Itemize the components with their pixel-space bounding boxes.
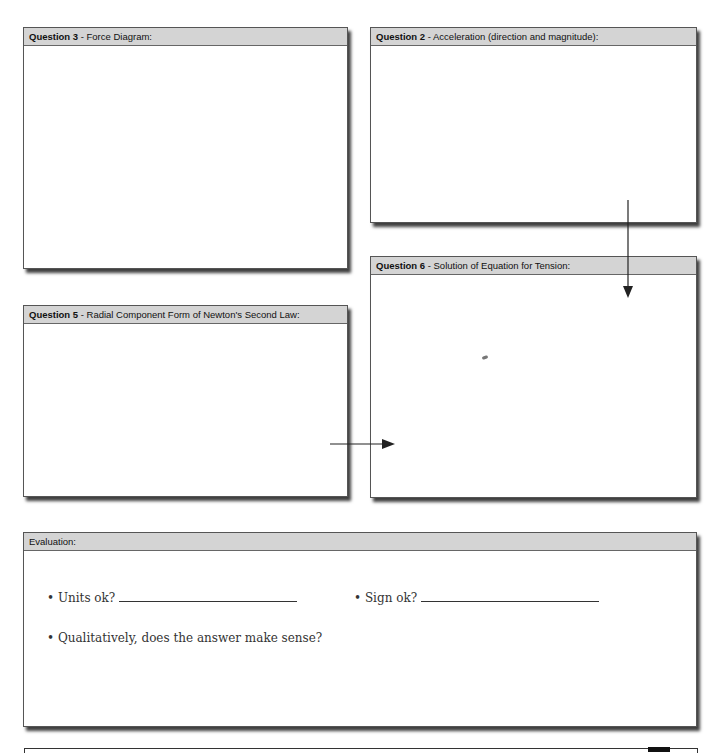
question-5-box: Question 5 - Radial Component Form of Ne… <box>23 305 348 497</box>
question-3-title: - Force Diagram: <box>78 31 152 42</box>
question-6-title: - Solution of Equation for Tension: <box>425 260 570 271</box>
evaluation-title: Evaluation: <box>29 536 76 547</box>
qualitative-item: • Qualitatively, does the answer make se… <box>47 631 322 645</box>
question-2-number: Question 2 <box>376 31 425 42</box>
evaluation-header: Evaluation: <box>24 533 696 551</box>
question-6-box: Question 6 - Solution of Equation for Te… <box>370 256 697 498</box>
sign-ok-item: • Sign ok? <box>354 589 599 605</box>
question-3-header: Question 3 - Force Diagram: <box>24 28 347 46</box>
arrow-down-icon <box>621 200 635 300</box>
question-5-header: Question 5 - Radial Component Form of Ne… <box>24 306 347 324</box>
question-3-number: Question 3 <box>29 31 78 42</box>
question-5-answer-area[interactable] <box>24 324 347 496</box>
question-5-title: - Radial Component Form of Newton's Seco… <box>78 309 299 320</box>
question-6-header: Question 6 - Solution of Equation for Te… <box>371 257 696 275</box>
evaluation-box: Evaluation: • Units ok? • Sign ok? • Qua… <box>23 532 697 727</box>
units-ok-blank[interactable] <box>119 589 297 602</box>
question-3-box: Question 3 - Force Diagram: <box>23 27 348 269</box>
units-ok-item: • Units ok? <box>47 589 297 605</box>
question-6-answer-area[interactable] <box>371 275 696 497</box>
question-2-answer-area[interactable] <box>371 46 696 222</box>
question-2-header: Question 2 - Acceleration (direction and… <box>371 28 696 46</box>
qualitative-label: • Qualitatively, does the answer make se… <box>47 631 322 645</box>
question-3-answer-area[interactable] <box>24 46 347 268</box>
sign-ok-label: • Sign ok? <box>354 591 417 605</box>
units-ok-label: • Units ok? <box>47 591 115 605</box>
question-5-number: Question 5 <box>29 309 78 320</box>
question-6-number: Question 6 <box>376 260 425 271</box>
arrow-right-icon <box>330 437 396 451</box>
evaluation-body: • Units ok? • Sign ok? • Qualitatively, … <box>24 551 696 726</box>
footer-bar <box>24 748 698 753</box>
footer-tab <box>648 747 670 752</box>
question-2-box: Question 2 - Acceleration (direction and… <box>370 27 697 223</box>
question-2-title: - Acceleration (direction and magnitude)… <box>425 31 598 42</box>
sign-ok-blank[interactable] <box>421 589 599 602</box>
